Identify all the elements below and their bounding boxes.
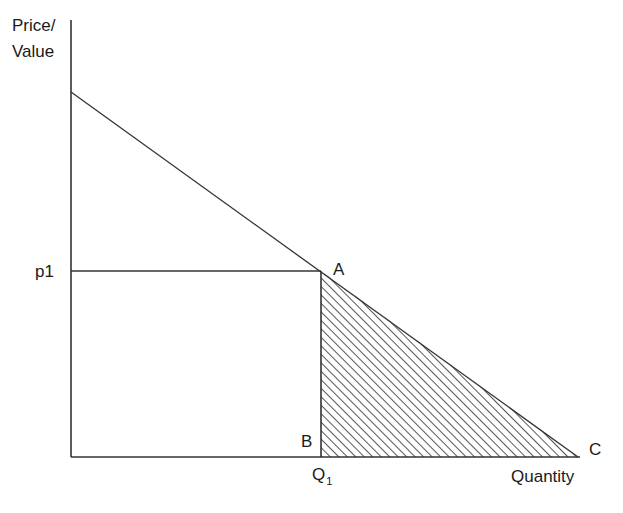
q1-main: Q — [312, 465, 325, 484]
q1-subscript: 1 — [326, 475, 332, 487]
y-axis-label-line1: Price/ — [12, 16, 55, 36]
price-p1-label: p1 — [35, 262, 54, 282]
point-b-label: B — [301, 432, 312, 452]
point-c-label: C — [589, 440, 601, 460]
y-axis-label-line2: Value — [12, 42, 54, 62]
x-axis-label: Quantity — [511, 467, 574, 487]
point-a-label: A — [333, 260, 344, 280]
quantity-q1-label: Q1 — [312, 465, 332, 486]
